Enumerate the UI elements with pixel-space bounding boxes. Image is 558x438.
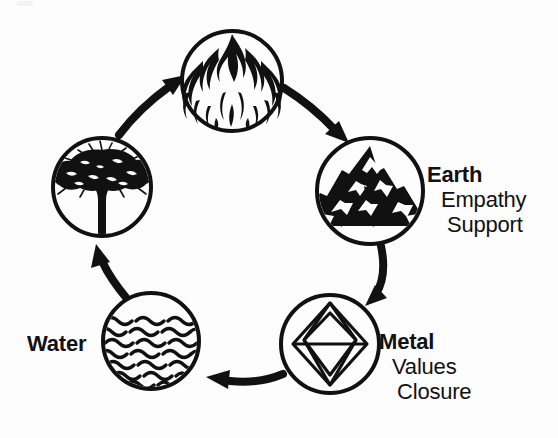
arrow-fire-to-earth xyxy=(284,88,349,143)
label-water: Water xyxy=(27,332,86,357)
node-water[interactable] xyxy=(98,293,203,389)
node-wood[interactable] xyxy=(48,138,157,236)
arrow-earth-to-metal xyxy=(365,246,387,306)
label-metal: Metal Values Closure xyxy=(379,330,471,405)
node-earth[interactable] xyxy=(298,138,442,244)
label-earth-title: Earth xyxy=(427,163,526,188)
arrow-metal-to-water xyxy=(206,370,283,389)
label-metal-title: Metal xyxy=(379,330,471,355)
five-element-cycle-diagram: Earth Empathy Support Metal Values Closu… xyxy=(0,0,558,438)
label-earth: Earth Empathy Support xyxy=(427,163,526,238)
label-metal-line1: Values xyxy=(379,355,471,380)
node-metal[interactable] xyxy=(281,295,379,393)
node-fire[interactable] xyxy=(182,31,282,131)
arrow-water-to-wood xyxy=(91,244,128,300)
label-water-title: Water xyxy=(27,332,86,357)
label-earth-line1: Empathy xyxy=(427,188,526,213)
arrow-wood-to-fire xyxy=(119,75,186,135)
label-earth-line2: Support xyxy=(427,213,526,238)
label-metal-line2: Closure xyxy=(379,380,471,405)
